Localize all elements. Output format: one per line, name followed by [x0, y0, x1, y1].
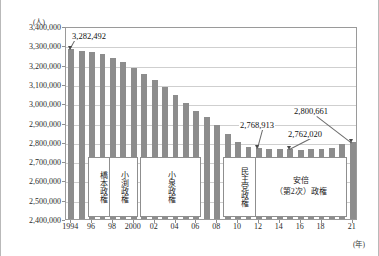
- y-tick-label: 3,400,000: [29, 23, 61, 32]
- era-box-label: 橋本政権: [98, 171, 106, 203]
- value-callout-label: 2,800,661: [293, 106, 329, 116]
- era-box-label: 小渕政権: [119, 171, 127, 203]
- x-tick-label: 02: [150, 222, 158, 231]
- x-tick-label: 08: [212, 222, 220, 231]
- callout-arrowhead: [68, 46, 72, 50]
- x-tick-mark: [237, 220, 238, 223]
- x-tick-mark: [321, 220, 322, 223]
- x-tick-mark: [91, 220, 92, 223]
- x-tick-mark: [279, 220, 280, 223]
- era-box-label: 民主党政権: [239, 167, 247, 207]
- y-tick-label: 3,000,000: [29, 100, 61, 109]
- x-tick-label: 98: [108, 222, 116, 231]
- x-tick-label: 96: [87, 222, 95, 231]
- x-tick-mark: [133, 220, 134, 223]
- bar: [350, 142, 356, 219]
- y-tick-mark: [62, 27, 65, 28]
- era-box-obuchi: 小渕政権: [109, 157, 138, 217]
- y-tick-label: 2,900,000: [29, 119, 61, 128]
- y-tick-mark: [62, 85, 65, 86]
- x-tick-mark: [70, 220, 71, 223]
- y-tick-label: 3,100,000: [29, 80, 61, 89]
- plot-area: 橋本政権小渕政権小泉政権民主党政権安倍（第2次）政権: [65, 27, 357, 220]
- y-tick-label: 2,700,000: [29, 158, 61, 167]
- value-callout-label: 2,762,020: [287, 129, 323, 139]
- callout-arrowhead: [255, 145, 259, 149]
- y-tick-label: 2,600,000: [29, 177, 61, 186]
- x-tick-mark: [352, 220, 353, 223]
- y-axis-tick-labels: 3,400,0003,300,0003,200,0003,100,0003,00…: [1, 0, 63, 256]
- x-tick-label: 14: [275, 222, 283, 231]
- x-tick-label: 06: [191, 222, 199, 231]
- x-tick-mark: [258, 220, 259, 223]
- x-axis-unit-label: (年): [353, 238, 365, 249]
- y-tick-mark: [62, 220, 65, 221]
- y-tick-mark: [62, 143, 65, 144]
- x-tick-mark: [154, 220, 155, 223]
- x-tick-mark: [195, 220, 196, 223]
- bar: [68, 49, 74, 219]
- x-tick-mark: [112, 220, 113, 223]
- x-tick-label: 18: [317, 222, 325, 231]
- bar: [79, 51, 85, 219]
- era-box-label: 小泉政権: [166, 171, 174, 203]
- y-tick-label: 3,200,000: [29, 61, 61, 70]
- y-tick-mark: [62, 181, 65, 182]
- y-tick-mark: [62, 46, 65, 47]
- callout-arrowhead: [349, 139, 353, 143]
- value-callout-label: 3,282,492: [71, 31, 107, 41]
- x-tick-mark: [175, 220, 176, 223]
- callout-arrowhead: [287, 146, 291, 150]
- value-callout-label: 2,768,913: [239, 120, 275, 130]
- y-tick-label: 2,400,000: [29, 216, 61, 225]
- bar: [204, 117, 210, 219]
- x-tick-label: 12: [254, 222, 262, 231]
- era-box-abe2: 安倍（第2次）政権: [255, 157, 347, 217]
- era-box-koizumi: 小泉政権: [140, 157, 200, 217]
- x-tick-label: 04: [171, 222, 179, 231]
- y-tick-mark: [62, 162, 65, 163]
- x-tick-label: 16: [296, 222, 304, 231]
- x-tick-mark: [216, 220, 217, 223]
- era-box-label: 安倍（第2次）政権: [275, 176, 327, 198]
- x-tick-label: 1994: [62, 222, 78, 231]
- x-tick-label: 21: [348, 222, 356, 231]
- bar: [214, 125, 220, 219]
- x-tick-label: 10: [233, 222, 241, 231]
- y-tick-mark: [62, 124, 65, 125]
- y-tick-label: 2,500,000: [29, 196, 61, 205]
- y-tick-mark: [62, 201, 65, 202]
- y-tick-mark: [62, 104, 65, 105]
- chart-frame: (人) (年) 3,400,0003,300,0003,200,0003,100…: [0, 0, 379, 256]
- gridline: [66, 47, 356, 48]
- y-tick-label: 3,300,000: [29, 42, 61, 51]
- y-tick-mark: [62, 66, 65, 67]
- x-tick-label: 2000: [125, 222, 141, 231]
- y-tick-label: 2,800,000: [29, 138, 61, 147]
- x-tick-mark: [300, 220, 301, 223]
